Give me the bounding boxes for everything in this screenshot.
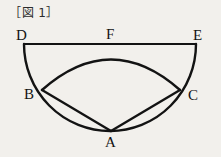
arc-semicircle-DBACE xyxy=(24,44,196,131)
vertex-label-e: E xyxy=(193,28,202,43)
segment-AC xyxy=(111,90,180,131)
vertex-label-b: B xyxy=(24,87,34,102)
vertex-label-d: D xyxy=(16,28,27,43)
vertex-label-a: A xyxy=(105,135,116,150)
vertex-label-c: C xyxy=(188,88,198,103)
figure-container: ［図 1］ D F E B C A xyxy=(0,0,221,157)
arc-BFC xyxy=(42,60,180,91)
vertex-label-f: F xyxy=(106,27,114,42)
